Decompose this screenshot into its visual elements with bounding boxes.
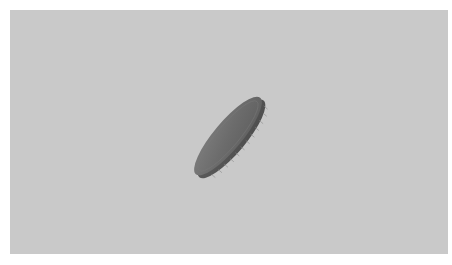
coin-scene [0,0,452,265]
coin [185,89,276,188]
